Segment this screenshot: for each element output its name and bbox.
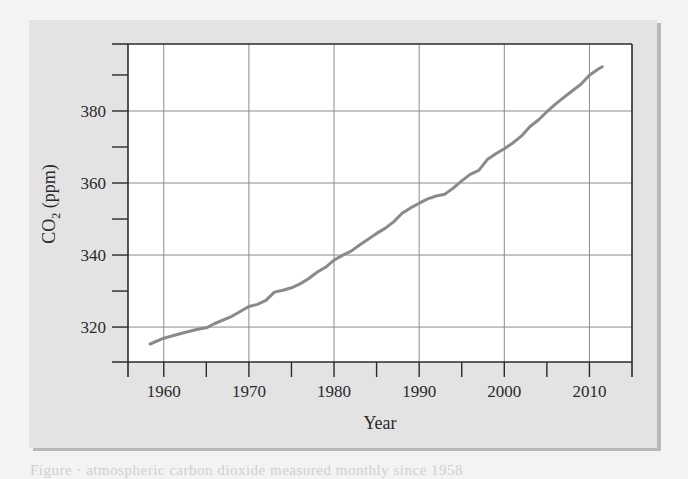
x-tick-label: 2000 — [487, 382, 521, 401]
x-tick-label: 1980 — [317, 382, 351, 401]
y-tick-label: 320 — [81, 318, 107, 337]
y-tick-label: 360 — [81, 174, 107, 193]
y-tick-label: 380 — [81, 102, 107, 121]
y-axis-label: CO2 (ppm) — [39, 164, 63, 244]
y-axis-label-unit: (ppm) — [39, 164, 60, 213]
x-tick-label: 2010 — [572, 382, 606, 401]
x-tick-label: 1970 — [232, 382, 266, 401]
y-tick-label: 340 — [81, 246, 107, 265]
x-tick-label: 1960 — [147, 382, 181, 401]
x-tick-label: 1990 — [402, 382, 436, 401]
x-axis-label: Year — [363, 413, 396, 433]
y-tick-labels: 320340360380 — [81, 102, 107, 337]
plot-area — [128, 44, 632, 362]
y-axis-label-main: CO — [39, 219, 59, 244]
caption-fragment: Figure · atmospheric carbon dioxide meas… — [30, 462, 463, 479]
x-tick-labels: 196019701980199020002010 — [147, 382, 607, 401]
